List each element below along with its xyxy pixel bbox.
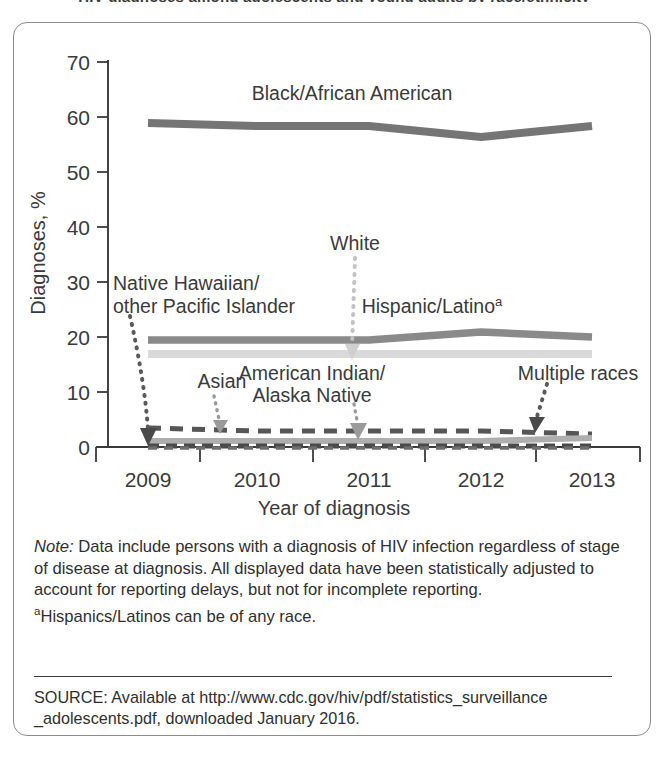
y-tick-label: 60 [67,106,90,129]
series-label-native-hawaiian-line1: Native Hawaiian/ [113,272,260,294]
leader-line-asian [214,396,220,424]
y-axis-ticks [97,62,108,447]
source-block: SOURCE: Available at http://www.cdc.gov/… [34,687,634,729]
footnote-superscript-a: a [495,294,503,309]
x-axis-title: Year of diagnosis [258,497,411,519]
y-axis-title: Diagnoses, % [27,191,49,315]
y-tick-label: 50 [67,161,90,184]
series-label-native-hawaiian-line2: other Pacific Islander [113,295,296,317]
y-tick-label: 30 [67,271,90,294]
source-divider-rule [34,676,612,677]
series-line-asian [148,428,592,434]
x-tick-label: 2013 [569,468,616,491]
note-label: Note: [34,537,74,556]
footnote-text: Hispanics/Latinos can be of any race. [40,606,316,625]
y-axis-tick-labels: 70 60 50 40 30 20 10 0 [67,51,90,459]
series-label-black-african-american: Black/African American [252,82,453,104]
y-tick-label: 20 [67,326,90,349]
x-tick-label: 2009 [125,468,172,491]
y-tick-label: 10 [67,381,90,404]
series-label-hispanic-latino: Hispanic/Latinoa [362,294,503,317]
footnote-paragraph: aHispanics/Latinos can be of any race. [34,601,626,627]
series-line-black-african-american [148,123,592,137]
y-tick-label: 70 [67,51,90,74]
series-label-asian: Asian [198,370,247,392]
leader-line-native-hawaiian [130,316,148,430]
leader-line-white [352,258,355,348]
line-chart: 70 60 50 40 30 20 10 0 2009 2010 2011 20… [0,0,668,530]
y-tick-label: 0 [78,436,90,459]
y-tick-label: 40 [67,216,90,239]
series-line-multiple-races [148,438,592,441]
x-axis-ticks [96,447,640,462]
series-label-american-indian-line2: Alaska Native [252,384,371,406]
x-tick-label: 2010 [234,468,281,491]
leader-line-american-indian [354,404,358,426]
notes-block: Note: Data include persons with a diagno… [34,536,626,643]
note-body: Data include persons with a diagnosis of… [34,537,620,599]
series-label-hispanic-latino-text: Hispanic/Latino [362,295,495,317]
series-line-hispanic-latino [148,332,592,340]
leader-line-multiple-races [536,384,547,420]
note-paragraph: Note: Data include persons with a diagno… [34,536,626,601]
series-label-multiple-races: Multiple races [518,362,639,384]
x-axis-tick-labels: 2009 2010 2011 2012 2013 [125,468,616,491]
chart-plot-area: 70 60 50 40 30 20 10 0 2009 2010 2011 20… [0,0,668,530]
x-tick-label: 2012 [458,468,505,491]
x-tick-label: 2011 [346,468,391,491]
series-label-american-indian-line1: American Indian/ [239,362,386,384]
series-label-white: White [330,232,380,254]
